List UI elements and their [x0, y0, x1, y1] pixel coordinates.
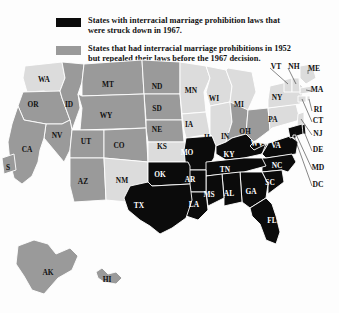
state-label-mt: MT	[102, 80, 114, 89]
state-label-mi: MI	[234, 100, 244, 109]
state-label-nv: NV	[52, 131, 63, 140]
state-label-or: OR	[27, 100, 39, 109]
state-label-nc: NC	[272, 161, 283, 170]
state-nj	[297, 112, 304, 126]
callout-label-ri: RI	[314, 105, 322, 114]
state-label-tn: TN	[220, 165, 231, 174]
state-label-hi: HI	[103, 275, 112, 284]
state-label-wa: WA	[38, 75, 51, 84]
legend-line-1: States that had interracial marriage pro…	[88, 44, 291, 53]
leader-line-ri	[309, 99, 312, 111]
state-nv	[44, 120, 72, 162]
us-map-svg: WAORIDMTNDSDNEWYNVUTCOCAAZNMKSMNWIIAMIIL…	[0, 58, 339, 313]
callout-label-dc: DC	[313, 180, 324, 189]
state-vt	[284, 78, 292, 92]
state-sd	[144, 94, 182, 120]
state-label-al: AL	[224, 189, 234, 198]
state-label-ak: AK	[42, 268, 53, 277]
state-label-ny: NY	[272, 93, 283, 102]
state-label-az: AZ	[78, 177, 88, 186]
leader-line-md	[295, 132, 312, 169]
state-label-ar: AR	[185, 175, 196, 184]
interracial-marriage-law-map-figure: States with interracial marriage prohibi…	[0, 0, 339, 313]
state-label-ms: MS	[203, 190, 214, 199]
legend-item-struck-down-text: States with interracial marriage prohibi…	[88, 16, 280, 37]
legend-line-2: were struck down in 1967.	[88, 26, 182, 35]
state-label-sc: SC	[265, 178, 274, 187]
state-label-ca: CA	[22, 145, 33, 154]
leader-line-dc	[294, 136, 312, 186]
legend-item-struck-down: States with interracial marriage prohibi…	[56, 16, 324, 37]
state-label-id: ID	[65, 100, 73, 109]
gray-swatch	[56, 46, 81, 55]
state-label-ga: GA	[245, 187, 257, 196]
state-label-wi: WI	[209, 94, 219, 103]
callout-label-de: DE	[313, 145, 324, 154]
state-label-nm: NM	[116, 176, 128, 185]
callout-label-me: ME	[308, 64, 320, 73]
legend-line-1: States with interracial marriage prohibi…	[88, 16, 280, 25]
state-label-s: S	[6, 163, 10, 172]
callout-label-md: MD	[312, 163, 325, 172]
state-label-il: IL	[204, 133, 212, 142]
callout-label-nh: NH	[288, 62, 299, 71]
state-label-wv: WV	[251, 139, 264, 148]
black-swatch	[56, 18, 81, 27]
state-co	[104, 128, 148, 162]
state-label-la: LA	[189, 200, 200, 209]
callout-label-ma: MA	[311, 85, 324, 94]
state-label-in: IN	[221, 132, 230, 141]
state-label-mo: MO	[181, 148, 194, 157]
us-choropleth-map: WAORIDMTNDSDNEWYNVUTCOCAAZNMKSMNWIIAMIIL…	[0, 58, 339, 313]
state-label-ok: OK	[154, 170, 166, 179]
state-label-ia: IA	[185, 120, 194, 129]
state-mt	[82, 60, 144, 96]
state-label-va: VA	[271, 141, 281, 150]
state-label-ne: NE	[152, 125, 162, 134]
state-label-wy: WY	[100, 111, 113, 120]
callout-label-nj: NJ	[313, 129, 322, 138]
state-oh	[246, 108, 270, 142]
state-label-pa: PA	[268, 115, 278, 124]
callout-label-ct: CT	[313, 116, 324, 125]
state-nh	[292, 78, 300, 92]
callout-label-vt: VT	[271, 62, 282, 71]
state-label-tx: TX	[134, 201, 145, 210]
state-label-ks: KS	[157, 142, 167, 151]
state-label-ky: KY	[223, 150, 235, 159]
state-label-fl: FL	[267, 216, 277, 225]
state-label-nd: ND	[152, 82, 163, 91]
state-label-ut: UT	[81, 137, 91, 146]
leader-line-de	[303, 129, 312, 151]
state-label-co: CO	[113, 141, 124, 150]
state-label-sd: SD	[152, 104, 161, 113]
state-label-oh: OH	[239, 127, 251, 136]
state-label-mn: MN	[185, 86, 198, 95]
